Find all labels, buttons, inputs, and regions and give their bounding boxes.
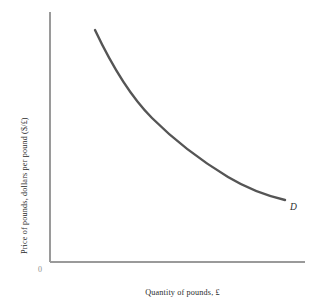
demand-curve	[95, 30, 285, 200]
y-axis-label: Price of pounds, dollars per pound ($/£)	[21, 24, 29, 254]
origin-label: 0	[38, 266, 42, 274]
figure-container: Price of pounds, dollars per pound ($/£)…	[0, 0, 319, 306]
chart-canvas	[0, 0, 319, 306]
demand-curve-label: D	[290, 203, 297, 213]
x-axis-label: Quantity of pounds, £	[50, 289, 315, 297]
